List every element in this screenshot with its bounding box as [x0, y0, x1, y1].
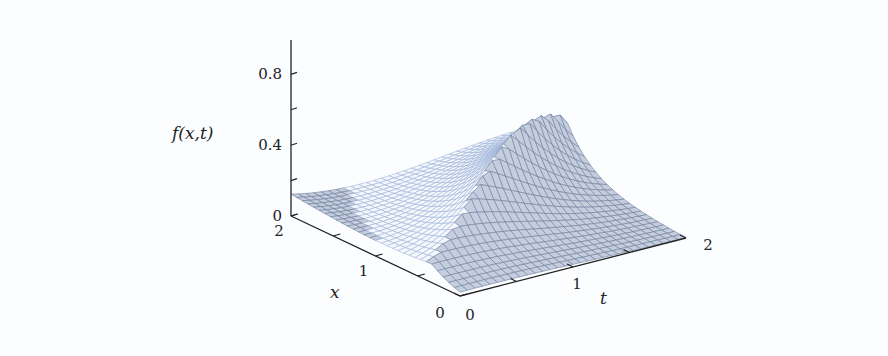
z-tick: [291, 179, 297, 181]
x-tick: [333, 234, 340, 236]
x-tick-label: 1: [359, 262, 369, 280]
x-tick: [418, 274, 425, 276]
t-tick-label: 0: [465, 306, 475, 324]
surface-plot: 00.40.8012012 f(x,t) x t: [0, 0, 888, 356]
x-tick: [376, 254, 383, 256]
surface-mesh: [291, 114, 686, 292]
t-tick: [511, 279, 517, 282]
z-axis-label: f(x,t): [170, 123, 213, 143]
t-axis-label: t: [600, 288, 607, 308]
z-tick: [291, 108, 297, 110]
z-tick-label: 0.8: [258, 65, 282, 83]
t-tick-label: 1: [572, 275, 582, 293]
z-tick-label: 0.4: [258, 136, 282, 154]
x-tick-label: 0: [435, 304, 445, 322]
t-tick: [454, 293, 460, 296]
z-tick: [291, 143, 297, 145]
z-tick: [291, 72, 297, 74]
x-axis-label: x: [330, 282, 340, 302]
t-tick-label: 2: [703, 236, 713, 254]
x-tick-label: 2: [274, 222, 284, 240]
